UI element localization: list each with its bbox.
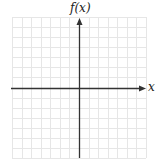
x-axis-label: x bbox=[148, 80, 155, 94]
y-axis-arrow-icon bbox=[77, 18, 83, 25]
x-axis-arrow-icon bbox=[139, 86, 146, 92]
y-axis-label: f(x) bbox=[70, 1, 91, 15]
coordinate-plane bbox=[0, 0, 161, 167]
